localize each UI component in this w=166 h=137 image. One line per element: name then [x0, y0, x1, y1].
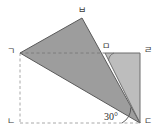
vertex-label-left: ㄱ [7, 47, 15, 56]
vertex-label-bottom-right: ㄷ [144, 117, 152, 126]
vertex-label-apex: ㅂ [78, 6, 86, 15]
angle-label-30-degrees: 30° [104, 112, 118, 122]
geometry-canvas [0, 0, 166, 137]
vertex-label-top-right: ㄹ [144, 46, 152, 55]
geometry-figure: ㄱ ㄴ ㄷ ㄹ ㅁ ㅂ 30° [0, 0, 166, 137]
vertex-label-bottom-left: ㄴ [7, 117, 15, 126]
vertex-label-mid-top: ㅁ [102, 42, 110, 51]
